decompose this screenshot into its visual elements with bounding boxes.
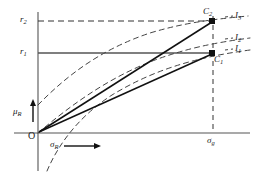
origin-label: O	[28, 131, 35, 141]
ray-origin-to-c2	[39, 22, 212, 132]
ray-origin-to-c1	[39, 54, 212, 132]
y-tick-label-r2: r2	[20, 15, 27, 24]
curve-label-i2: I2	[235, 33, 241, 42]
i3-leader-line	[225, 16, 233, 17]
curve-label-i3: I3	[235, 11, 241, 20]
diagram-svg	[0, 0, 258, 173]
i1-leader-line	[225, 49, 233, 50]
figure-canvas: r2 r1 μR O σR σg C2 C1 I3 I2 I1	[0, 0, 258, 173]
sigma-axis-arrow	[64, 143, 101, 149]
curve-label-i1: I1	[235, 44, 241, 53]
y-tick-label-r1: r1	[20, 47, 27, 56]
i2-leader-line	[225, 38, 233, 39]
point-marker-c2	[209, 18, 215, 24]
point-label-c2: C2	[203, 7, 212, 16]
x-axis-label-sigma-r: σR	[50, 140, 58, 149]
mu-axis-arrow	[30, 99, 36, 122]
x-axis-max-label-sigma-g: σg	[207, 136, 215, 145]
point-label-c1: C1	[214, 55, 223, 64]
y-axis-label-mu-r: μR	[13, 107, 22, 116]
indifference-curve-i1	[47, 50, 250, 171]
